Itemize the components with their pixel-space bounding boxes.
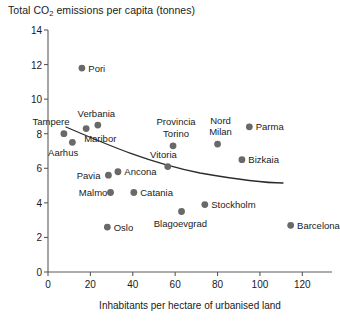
x-axis-ticks (48, 272, 302, 276)
y-tick-label: 10 (14, 94, 42, 105)
data-point-label: Bizkaia (248, 154, 279, 165)
x-tick-label: 120 (294, 279, 311, 290)
data-markers (60, 65, 294, 231)
data-point-label: Barcelona (297, 220, 340, 231)
data-point-label: NordMilan (205, 115, 236, 138)
data-point-label: Tampere (33, 116, 70, 127)
data-point-marker (130, 189, 137, 196)
x-axis-title: Inhabitants per hectare of urbanised lan… (99, 300, 281, 311)
x-tick-label: 20 (85, 279, 96, 290)
data-point-label: Pavia (77, 170, 101, 181)
data-point-label: Blagoevgrad (154, 218, 207, 229)
y-tick-label: 12 (14, 59, 42, 70)
x-tick-label: 0 (45, 279, 51, 290)
y-tick-label: 0 (14, 267, 42, 278)
data-point-label: Parma (256, 121, 284, 132)
data-point-marker (287, 222, 294, 229)
data-point-marker (115, 168, 122, 175)
data-point-marker (164, 163, 171, 170)
data-point-label: Maribor (84, 133, 116, 144)
data-point-marker (201, 201, 208, 208)
data-point-marker (69, 139, 76, 146)
data-point-marker (60, 130, 67, 137)
data-point-marker (94, 122, 101, 129)
data-point-label: ProvinciaTorino (150, 116, 201, 139)
x-tick-label: 60 (170, 279, 181, 290)
data-point-label: Ancona (124, 166, 156, 177)
y-tick-label: 4 (14, 197, 42, 208)
y-tick-label: 6 (14, 163, 42, 174)
data-point-marker (246, 123, 253, 130)
x-tick-label: 100 (252, 279, 269, 290)
data-point-label: Stockholm (211, 199, 255, 210)
data-point-marker (104, 224, 111, 231)
data-point-marker (79, 65, 86, 72)
data-point-marker (239, 156, 246, 163)
data-point-marker (83, 125, 90, 132)
data-point-label: Verbania (78, 108, 116, 119)
data-point-label: Pori (88, 63, 105, 74)
x-tick-label: 40 (127, 279, 138, 290)
data-point-label: Catania (140, 187, 173, 198)
y-tick-label: 14 (14, 25, 42, 36)
data-point-label: Malmo (79, 187, 108, 198)
data-point-label: Aarhus (48, 147, 78, 158)
data-point-marker (214, 141, 221, 148)
data-point-marker (107, 189, 114, 196)
y-tick-label: 2 (14, 232, 42, 243)
data-point-label: Vitoria (150, 149, 177, 160)
x-tick-label: 80 (212, 279, 223, 290)
data-point-label: Oslo (114, 222, 134, 233)
data-point-marker (178, 208, 185, 215)
y-tick-label: 8 (14, 128, 42, 139)
data-point-marker (105, 172, 112, 179)
